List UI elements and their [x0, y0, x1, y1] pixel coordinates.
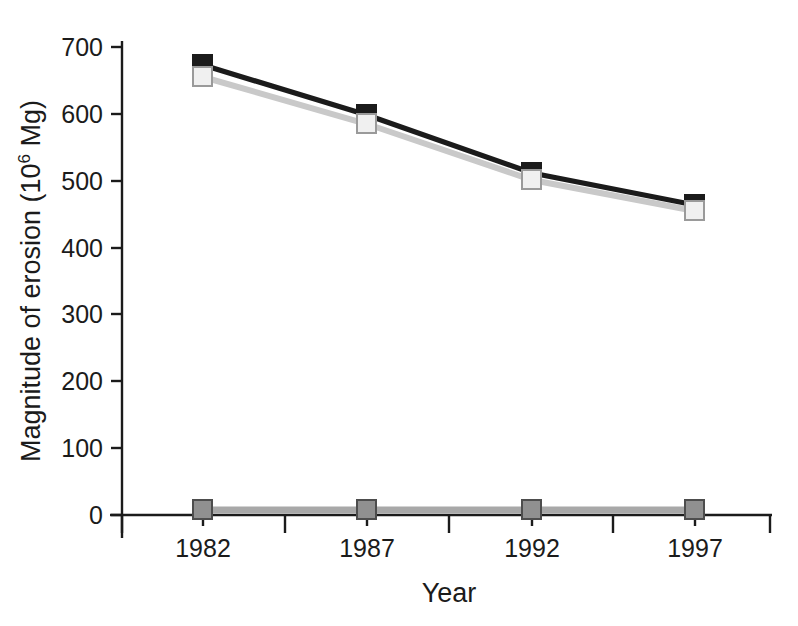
- y-axis-title-base: Magnitude of erosion (10: [16, 163, 46, 462]
- y-tick-label-300: 300: [61, 300, 103, 328]
- erosion-line-chart: 0 100 200 300 400 500 600 700 1982 1987 …: [0, 0, 798, 626]
- y-tick-label-500: 500: [61, 167, 103, 195]
- series-wind-erosion-pasture-marker: [522, 500, 541, 519]
- y-tick-label-100: 100: [61, 434, 103, 462]
- series-wind-erosion-pasture-marker: [685, 500, 704, 519]
- series-sheet-rill-erosion-marker-face: [193, 67, 212, 86]
- y-tick-label-400: 400: [61, 234, 103, 262]
- y-tick-label-700: 700: [61, 33, 103, 61]
- series-wind-erosion-pasture-marker: [357, 500, 376, 519]
- svg-text:Magnitude of erosion (106 Mg): Magnitude of erosion (106 Mg): [15, 100, 46, 462]
- x-tick-label-1997: 1997: [667, 534, 723, 562]
- x-tick-label-1992: 1992: [504, 534, 560, 562]
- chart-figure: 0 100 200 300 400 500 600 700 1982 1987 …: [0, 0, 798, 626]
- series-sheet-rill-erosion-marker-face: [522, 170, 541, 189]
- y-axis-title-tail: Mg): [16, 100, 46, 154]
- y-axis-title-exponent: 6: [15, 154, 34, 163]
- y-tick-label-600: 600: [61, 100, 103, 128]
- y-tick-label-0: 0: [89, 501, 103, 529]
- x-tick-label-1982: 1982: [175, 534, 231, 562]
- y-axis-title: Magnitude of erosion (106 Mg): [15, 100, 46, 462]
- series-sheet-rill-erosion-marker-face: [357, 114, 376, 133]
- y-tick-label-200: 200: [61, 367, 103, 395]
- x-tick-label-1987: 1987: [339, 534, 395, 562]
- series-sheet-rill-erosion-marker-face: [685, 201, 704, 220]
- x-axis-title: Year: [422, 578, 477, 608]
- series-wind-erosion-pasture-marker: [193, 500, 212, 519]
